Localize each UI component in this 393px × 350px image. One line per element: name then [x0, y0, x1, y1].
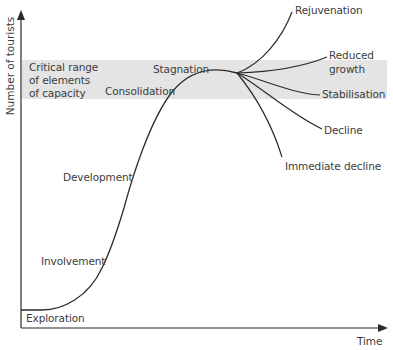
critical-range-label-line2: of elements [29, 74, 90, 87]
stage-label-stagnation: Stagnation [153, 63, 209, 76]
stage-label-involvement: Involvement [41, 255, 105, 268]
life-cycle-curve [21, 70, 237, 310]
outcome-label-decline: Decline [324, 124, 363, 137]
y-axis-label: Number of tourists [4, 16, 16, 116]
outcome-label-rejuvenation: Rejuvenation [295, 4, 363, 17]
outcome-label-immediate-decline: Immediate decline [285, 160, 381, 173]
stage-label-exploration: Exploration [26, 312, 85, 325]
outcome-label-stabilisation: Stabilisation [322, 88, 385, 101]
outcome-label-reduced-growth-line1: Reduced [329, 49, 374, 62]
stage-label-development: Development [63, 171, 133, 184]
stage-label-consolidation: Consolidation [105, 85, 175, 98]
tourism-life-cycle-diagram: Number of tourists Time Critical range o… [0, 0, 393, 350]
outcome-label-reduced-growth-line2: growth [329, 63, 365, 76]
x-axis-arrow-icon [378, 324, 388, 332]
x-axis-label: Time [357, 335, 382, 348]
critical-range-label-line3: of capacity [29, 87, 86, 100]
y-axis-arrow-icon [17, 10, 25, 20]
critical-range-label-line1: Critical range [29, 61, 98, 74]
